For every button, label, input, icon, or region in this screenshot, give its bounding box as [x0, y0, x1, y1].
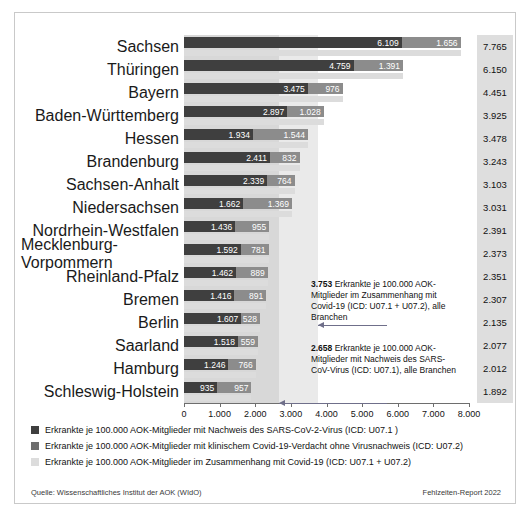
bar-total-combined: [184, 234, 269, 241]
stacked-bar: 1.518559: [184, 336, 258, 347]
category-label: Sachsen: [21, 35, 179, 58]
bar-segment-u072: 559: [238, 336, 258, 347]
bar-segment-u071: 2.897: [184, 106, 287, 117]
bar-total-combined: [184, 96, 343, 103]
legend-item: Erkrankte je 100.000 AOK-Mitglieder mit …: [31, 441, 463, 451]
bar-segment-u071: 1.934: [184, 129, 253, 140]
bar-segment-u071: 4.759: [184, 60, 354, 71]
category-label-text: Niedersachsen: [72, 199, 179, 217]
bar-segment-u071: 1.436: [184, 221, 235, 232]
legend-swatch-icon: [31, 426, 39, 434]
category-label: Hamburg: [21, 357, 179, 380]
bar-group: 2.339764: [184, 173, 469, 196]
category-labels: SachsenThüringenBayernBaden-WürttembergH…: [21, 35, 179, 403]
source-note: Quelle: Wissenschaftliches Institut der …: [31, 488, 201, 497]
bar-segment-u072: 891: [234, 290, 266, 301]
category-label: Hessen: [21, 127, 179, 150]
x-tick-mark: [469, 403, 470, 407]
legend-label: Erkrankte je 100.000 AOK-Mitglieder mit …: [45, 425, 398, 435]
legend-label: Erkrankte je 100.000 AOK-Mitglieder mit …: [45, 441, 463, 451]
category-label-text: Schleswig-Holstein: [44, 383, 179, 401]
callout-leader-line: [279, 403, 387, 404]
bar-segment-u072: 781: [241, 244, 269, 255]
callout-value: 2.658: [311, 343, 332, 353]
total-value: 2.307: [477, 288, 513, 311]
chart-plot: SachsenThüringenBayernBaden-WürttembergH…: [15, 13, 515, 503]
bar-segment-u071: 1.592: [184, 244, 241, 255]
stacked-bar: 4.7591.391: [184, 60, 403, 71]
total-value: 2.012: [477, 357, 513, 380]
bar-group: 1.6621.369: [184, 196, 469, 219]
bar-group: 1.436955: [184, 219, 469, 242]
bar-segment-u071: 1.662: [184, 198, 243, 209]
category-label-text: Hamburg: [113, 360, 179, 378]
bar-group: 6.1091.656: [184, 35, 469, 58]
category-label: Niedersachsen: [21, 196, 179, 219]
stacked-bar: 1.246766: [184, 359, 256, 370]
bar-segment-u071: 3.475: [184, 83, 308, 94]
category-label-text: Sachsen: [117, 38, 179, 56]
category-label: Berlin: [21, 311, 179, 334]
callout-arrowhead-icon: [318, 322, 324, 328]
bar-segment-u071: 1.416: [184, 290, 234, 301]
legend-label: Erkrankte je 100.000 AOK-Mitglieder im Z…: [45, 457, 411, 467]
bar-total-combined: [184, 326, 260, 333]
bar-segment-u072: 766: [228, 359, 255, 370]
stacked-bar: 935957: [184, 382, 251, 393]
stacked-bar: 2.8971.028: [184, 106, 324, 117]
bar-group: 1.592781: [184, 242, 469, 265]
stacked-bar: 3.475976: [184, 83, 343, 94]
bar-segment-u072: 1.656: [402, 37, 461, 48]
x-tick-label: 4.000: [315, 409, 338, 419]
total-value: 2.351: [477, 265, 513, 288]
callout-text: Erkrankte je 100.000 AOK-Mitglieder im Z…: [311, 279, 445, 322]
stacked-bar: 2.339764: [184, 175, 295, 186]
bar-segment-u071: 6.109: [184, 37, 402, 48]
category-label: Schleswig-Holstein: [21, 380, 179, 403]
total-value: 2.391: [477, 219, 513, 242]
x-tick-label: 0: [181, 409, 186, 419]
bar-segment-u072: 832: [270, 152, 300, 163]
x-tick-label: 7.000: [422, 409, 445, 419]
bar-total-combined: [184, 395, 251, 402]
bar-group: 1.9341.544: [184, 127, 469, 150]
category-label-text: Thüringen: [107, 61, 179, 79]
callout-annotation: 2.658 Erkrankte je 100.000 AOK-Mitgliede…: [311, 343, 461, 376]
x-tick-label: 1.000: [208, 409, 231, 419]
total-value: 4.451: [477, 81, 513, 104]
bar-segment-u072: 889: [236, 267, 268, 278]
total-value: 3.031: [477, 196, 513, 219]
category-label-text: Bremen: [123, 291, 179, 309]
bar-segment-u071: 1.607: [184, 313, 241, 324]
stacked-bar: 1.416891: [184, 290, 266, 301]
legend-item: Erkrankte je 100.000 AOK-Mitglieder im Z…: [31, 457, 411, 467]
category-label: Brandenburg: [21, 150, 179, 173]
bar-segment-u071: 1.246: [184, 359, 228, 370]
category-label-text: Saarland: [115, 337, 179, 355]
total-value: 2.373: [477, 242, 513, 265]
stacked-bar: 1.462889: [184, 267, 268, 278]
bar-segment-u072: 976: [308, 83, 343, 94]
total-value: 3.243: [477, 150, 513, 173]
legend-item: Erkrankte je 100.000 AOK-Mitglieder mit …: [31, 425, 398, 435]
bar-total-combined: [184, 165, 300, 172]
total-value: 6.150: [477, 58, 513, 81]
bar-total-combined: [184, 142, 308, 149]
stacked-bar: 1.607528: [184, 313, 260, 324]
x-tick-mark: [184, 403, 185, 407]
bar-group: 2.8971.028: [184, 104, 469, 127]
bar-total-combined: [184, 188, 295, 195]
x-tick-label: 8.000: [458, 409, 481, 419]
x-tick-mark: [255, 403, 256, 407]
bar-total-combined: [184, 303, 266, 310]
bar-total-combined: [184, 73, 403, 80]
category-label-text: Hessen: [125, 130, 179, 148]
bar-segment-u071: 935: [184, 382, 217, 393]
bar-total-combined: [184, 211, 292, 218]
bar-segment-u071: 2.339: [184, 175, 267, 186]
x-tick-label: 5.000: [351, 409, 374, 419]
report-note: Fehlzeiten-Report 2022: [423, 488, 501, 497]
bar-total-combined: [184, 50, 461, 57]
chart-figure: SachsenThüringenBayernBaden-WürttembergH…: [14, 12, 516, 504]
total-value: 2.077: [477, 334, 513, 357]
